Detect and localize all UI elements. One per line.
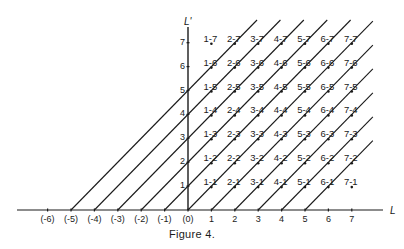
lattice-point-label: 2-5 xyxy=(227,81,241,92)
lattice-point-label: 6-2 xyxy=(321,152,335,163)
x-tick-label: (-1) xyxy=(158,214,172,224)
lattice-point-label: 1-4 xyxy=(204,104,218,115)
lattice-point-label: 1-5 xyxy=(204,81,218,92)
x-tick-label: (-4) xyxy=(87,214,101,224)
lattice-point-label: 5-6 xyxy=(297,57,311,68)
lattice-point-label: 3-3 xyxy=(250,128,264,139)
x-tick-label: 7 xyxy=(349,214,354,224)
lattice-point-label: 4-5 xyxy=(274,81,288,92)
l-axis-label: L xyxy=(390,205,396,216)
y-tick-label: 7 xyxy=(180,37,185,47)
y-tick-label: 4 xyxy=(180,108,185,118)
lattice-point-label: 2-3 xyxy=(227,128,241,139)
lattice-points: 1-11-21-31-41-51-61-72-12-22-32-42-52-62… xyxy=(204,33,358,189)
lattice-point-label: 1-7 xyxy=(204,33,218,44)
lattice-point-label: 7-1 xyxy=(344,176,358,187)
figure-caption: Figure 4. xyxy=(0,228,384,240)
lattice-point-label: 5-1 xyxy=(297,176,311,187)
lattice-point-label: 3-5 xyxy=(250,81,264,92)
axis-labels: (-6)(-5)(-4)(-3)(-2)(-1)(0)1234567123456… xyxy=(41,16,396,224)
lattice-point-label: 6-1 xyxy=(321,176,335,187)
lattice-point-label: 6-7 xyxy=(321,33,335,44)
lattice-point-label: 1-3 xyxy=(204,128,218,139)
y-tick-label: 3 xyxy=(180,132,185,142)
lattice-point-label: 7-5 xyxy=(344,81,358,92)
lattice-point-label: 4-4 xyxy=(274,104,288,115)
y-tick-label: 6 xyxy=(180,61,185,71)
lattice-point-label: 1-1 xyxy=(204,176,218,187)
lattice-point-label: 1-6 xyxy=(204,57,218,68)
x-tick-label: 3 xyxy=(256,214,261,224)
lattice-point-label: 5-7 xyxy=(297,33,311,44)
lattice-point-label: 7-4 xyxy=(344,104,358,115)
lattice-point-label: 5-5 xyxy=(297,81,311,92)
lattice-point-label: 3-1 xyxy=(250,176,264,187)
x-tick-label: 6 xyxy=(326,214,331,224)
lattice-point-label: 4-6 xyxy=(274,57,288,68)
lattice-diagram: 1-11-21-31-41-51-61-72-12-22-32-42-52-62… xyxy=(0,0,404,249)
x-tick-label: 2 xyxy=(232,214,237,224)
lattice-point-label: 7-3 xyxy=(344,128,358,139)
lattice-point-label: 7-2 xyxy=(344,152,358,163)
lattice-point-label: 2-6 xyxy=(227,57,241,68)
y-tick-label: 1 xyxy=(180,180,185,190)
lattice-point-label: 5-2 xyxy=(297,152,311,163)
x-tick-label: (-5) xyxy=(64,214,78,224)
x-tick-label: (0) xyxy=(183,214,194,224)
lattice-point-label: 6-3 xyxy=(321,128,335,139)
lattice-point-label: 1-2 xyxy=(204,152,218,163)
x-tick-label: (-3) xyxy=(111,214,125,224)
lattice-point-label: 7-7 xyxy=(344,33,358,44)
lattice-point-label: 6-4 xyxy=(321,104,335,115)
lattice-point-label: 2-7 xyxy=(227,33,241,44)
lattice-point-label: 3-7 xyxy=(250,33,264,44)
x-tick-label: (-2) xyxy=(134,214,148,224)
x-tick-label: 5 xyxy=(302,214,307,224)
lattice-point-label: 2-1 xyxy=(227,176,241,187)
lattice-point-label: 2-4 xyxy=(227,104,241,115)
y-tick-label: 2 xyxy=(180,156,185,166)
x-tick-label: (-6) xyxy=(41,214,55,224)
x-tick-label: 1 xyxy=(209,214,214,224)
x-tick-label: 4 xyxy=(279,214,284,224)
y-tick-label: 5 xyxy=(180,85,185,95)
lattice-point-label: 3-4 xyxy=(250,104,264,115)
lattice-point-label: 4-2 xyxy=(274,152,288,163)
lattice-point-label: 6-5 xyxy=(321,81,335,92)
lattice-point-label: 3-6 xyxy=(250,57,264,68)
lattice-point-label: 5-4 xyxy=(297,104,311,115)
lattice-point-label: 3-2 xyxy=(250,152,264,163)
lattice-point-label: 2-2 xyxy=(227,152,241,163)
lattice-point-label: 6-6 xyxy=(321,57,335,68)
lattice-point-label: 7-6 xyxy=(344,57,358,68)
lattice-point-label: 5-3 xyxy=(297,128,311,139)
lattice-point-label: 4-3 xyxy=(274,128,288,139)
lattice-point-label: 4-7 xyxy=(274,33,288,44)
lprime-axis-label: L' xyxy=(184,16,193,27)
lattice-point-label: 4-1 xyxy=(274,176,288,187)
